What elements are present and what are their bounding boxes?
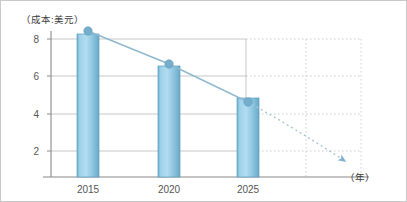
bar-2015 <box>77 34 99 177</box>
data-point-2015 <box>84 27 92 35</box>
y-tick-labels: 8 6 4 2 <box>33 34 39 157</box>
x-axis-title: （年） <box>345 172 375 183</box>
y-tick-label: 4 <box>33 109 39 120</box>
x-tick-labels: 2015 2020 2025 <box>77 184 260 195</box>
x-tick-label: 2015 <box>77 184 100 195</box>
y-axis-title: （成本:美元） <box>21 14 84 25</box>
cost-trend-chart: 8 6 4 2 （成本:美元） （年） 2015 2020 20 <box>1 1 407 202</box>
trend-extrapolation-arrow <box>248 102 345 161</box>
x-tick-label: 2020 <box>158 184 181 195</box>
bar-2025 <box>237 98 259 177</box>
bar-series <box>77 34 259 177</box>
chart-figure: 8 6 4 2 （成本:美元） （年） 2015 2020 20 <box>0 0 407 202</box>
data-point-2025 <box>244 98 252 106</box>
data-point-2020 <box>165 60 173 68</box>
bar-2020 <box>158 66 180 177</box>
gridlines-dotted <box>246 39 361 177</box>
y-tick-label: 2 <box>33 146 39 157</box>
y-tick-label: 6 <box>33 71 39 82</box>
x-tick-label: 2025 <box>237 184 260 195</box>
y-tick-label: 8 <box>33 34 39 45</box>
y-tick-marks <box>47 39 51 151</box>
